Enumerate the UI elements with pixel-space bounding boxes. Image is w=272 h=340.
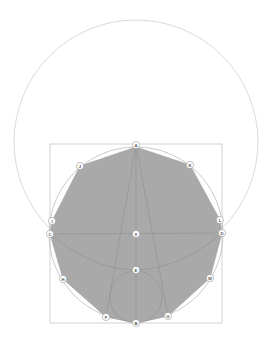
point-m-label: M xyxy=(208,276,212,281)
point-e: E xyxy=(132,266,139,273)
point-b: B xyxy=(132,319,139,326)
point-d: D xyxy=(218,229,225,236)
point-x-label: X xyxy=(135,232,138,237)
point-a-label: A xyxy=(134,143,137,148)
point-e-label: E xyxy=(135,268,138,273)
point-b-label: B xyxy=(134,321,137,326)
point-k-label: K xyxy=(188,163,191,168)
point-i-label: I xyxy=(51,219,52,224)
point-x: X xyxy=(132,230,139,237)
point-f-label: F xyxy=(105,315,108,320)
point-l-label: L xyxy=(219,218,222,223)
point-i: I xyxy=(48,217,55,224)
point-c-label: C xyxy=(48,232,51,237)
point-h: H xyxy=(59,275,66,282)
point-g: G xyxy=(164,312,171,319)
point-d-label: D xyxy=(220,231,223,236)
point-j: J xyxy=(76,162,83,169)
point-f: F xyxy=(102,313,109,320)
point-k: K xyxy=(186,161,193,168)
point-m: M xyxy=(206,274,213,281)
geometric-construction-diagram: A B C D X E F G xyxy=(0,0,272,340)
point-a: A xyxy=(132,141,139,148)
point-h-label: H xyxy=(61,277,64,282)
point-g-label: G xyxy=(166,314,169,319)
point-c: C xyxy=(46,230,53,237)
point-l: L xyxy=(216,216,223,223)
